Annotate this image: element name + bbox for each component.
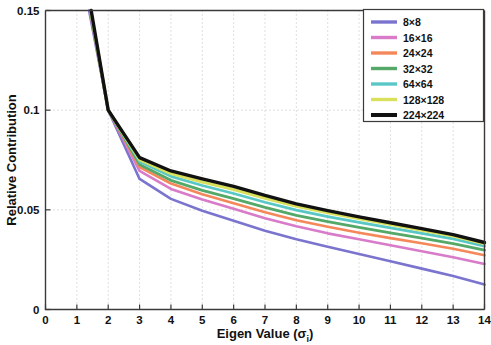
x-tick-label: 3 [136,314,142,326]
legend-label-224x224: 224×224 [403,109,444,121]
x-tick-label: 11 [384,314,397,326]
y-tick-label: 0 [33,304,39,316]
y-tick-label: 0.15 [17,5,40,17]
x-axis-title: Eigen Value (σi) [217,326,314,344]
x-tick-label: 4 [168,314,175,326]
x-tick-label: 5 [199,314,206,326]
x-tick-label: 7 [262,314,268,326]
x-tick-label: 12 [415,314,428,326]
x-tick-label: 10 [353,314,366,326]
legend-label-8x8: 8×8 [403,16,421,28]
x-tick-label: 8 [293,314,300,326]
x-tick-label: 9 [325,314,331,326]
x-axis-ticks: 01234567891011121314 [42,305,491,326]
x-tick-label: 14 [478,314,491,326]
x-tick-label: 2 [105,314,111,326]
chart-legend: 8×816×1624×2432×3264×64128×128224×224 [364,10,484,122]
x-tick-label: 13 [447,314,460,326]
legend-label-128x128: 128×128 [403,94,444,106]
legend-label-16x16: 16×16 [403,32,433,44]
x-tick-label: 6 [230,314,236,326]
y-axis-title: Relative Contribution [4,94,19,226]
y-tick-label: 0.05 [17,204,40,216]
legend-label-24x24: 24×24 [403,47,433,59]
y-tick-label: 0.1 [24,104,41,116]
legend-label-32x32: 32×32 [403,63,433,75]
x-tick-label: 1 [74,314,81,326]
chart-figure: 01234567891011121314 00.050.10.15 Eigen … [0,0,491,345]
line-chart: 01234567891011121314 00.050.10.15 Eigen … [0,0,491,345]
x-tick-label: 0 [42,314,48,326]
legend-label-64x64: 64×64 [403,78,433,90]
